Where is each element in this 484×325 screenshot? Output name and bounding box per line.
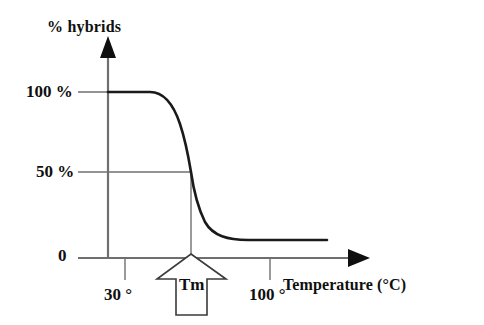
x-axis-label: Temperature (°C) (283, 277, 406, 293)
y-tick-label-zero: 0 (58, 247, 67, 264)
y-tick-label-100-percent: 100 % (26, 83, 73, 100)
hybridization-melting-curve (108, 92, 327, 240)
y-axis-label: % hybrids (47, 19, 121, 35)
y-axis-arrowhead-icon (100, 36, 116, 58)
x-tick-label-30-degrees: 30 ° (104, 286, 132, 303)
y-tick-label-50-percent: 50 % (36, 163, 74, 180)
x-tick-label-100-degrees: 100 ° (249, 286, 286, 303)
tm-annotation-label: Tm (179, 276, 205, 293)
x-axis-arrowhead-icon (348, 249, 370, 267)
